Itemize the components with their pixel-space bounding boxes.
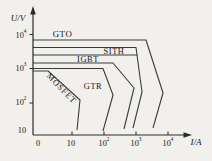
y-axis-arrow-icon: [30, 6, 36, 15]
region-label-igbt: IGBT: [77, 55, 99, 63]
device-ratings-chart: U/V I/A 10410310210010102103104GTOSITHIG…: [0, 0, 212, 161]
x-tick-label: 10: [67, 140, 75, 148]
x-tick-label: 104: [163, 140, 174, 148]
region-label-gtr: GTR: [84, 83, 102, 91]
x-axis-unit-label: I/A: [191, 138, 202, 147]
y-tick-label: 103: [16, 65, 27, 73]
region-label-gto: GTO: [53, 29, 73, 38]
region-label-sith: SITH: [104, 47, 125, 55]
x-tick-label: 0: [36, 140, 40, 148]
x-tick-label: 103: [131, 140, 142, 148]
x-tick-label: 102: [99, 140, 110, 148]
y-tick-label: 102: [16, 99, 27, 107]
y-tick-label: 104: [16, 32, 27, 40]
y-tick-label: 10: [18, 127, 26, 135]
y-axis-unit-label: U/V: [11, 14, 26, 23]
